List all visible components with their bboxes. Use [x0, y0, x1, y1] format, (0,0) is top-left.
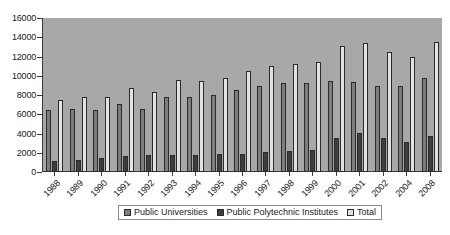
y-axis-tick: [37, 76, 42, 77]
bar-total: [105, 97, 110, 172]
x-axis-label-slot: 1991: [113, 176, 136, 206]
bar-group: [207, 18, 230, 172]
bar-group: [160, 18, 183, 172]
bar-total: [152, 92, 157, 172]
bar-polytechnic: [334, 138, 339, 172]
y-axis: 0200040006000800010000120001400016000: [0, 18, 36, 172]
y-axis-tick: [37, 134, 42, 135]
bar-polytechnic: [310, 150, 315, 172]
y-axis-tick: [37, 172, 42, 173]
bar-total: [129, 88, 134, 172]
bar-group: [90, 18, 113, 172]
x-axis-label-slot: 1988: [43, 176, 66, 206]
x-axis-label-slot: 2008: [419, 176, 442, 206]
bar-universities: [117, 104, 122, 172]
bar-polytechnic: [193, 155, 198, 172]
x-axis-tick-label: 1991: [112, 178, 133, 199]
bar-total: [293, 64, 298, 172]
y-axis-tick-label: 14000: [12, 32, 36, 42]
x-axis-tick-label: 1995: [205, 178, 226, 199]
x-axis-tick-label: 2002: [370, 178, 391, 199]
y-axis-tick: [37, 57, 42, 58]
x-axis-tick-label: 2000: [323, 178, 344, 199]
bar-polytechnic: [240, 154, 245, 172]
x-axis-label-slot: 1994: [184, 176, 207, 206]
bar-total: [269, 66, 274, 172]
bar-group: [372, 18, 395, 172]
legend-item-total[interactable]: Total: [347, 208, 376, 217]
bar-universities: [70, 109, 75, 172]
legend-swatch-icon: [124, 209, 131, 216]
y-axis-tick-label: 12000: [12, 52, 36, 62]
bar-polytechnic: [287, 151, 292, 172]
bar-total: [387, 52, 392, 172]
bar-universities: [211, 95, 216, 172]
y-axis-tick-label: 8000: [17, 90, 36, 100]
y-axis-tick: [37, 114, 42, 115]
x-axis-label-slot: 1990: [90, 176, 113, 206]
bar-chart: 0200040006000800010000120001400016000 19…: [0, 0, 450, 235]
y-axis-tick-label: 6000: [17, 109, 36, 119]
bar-group: [301, 18, 324, 172]
bar-polytechnic: [217, 154, 222, 172]
y-axis-tick: [37, 37, 42, 38]
bar-polytechnic: [146, 155, 151, 172]
bar-universities: [328, 81, 333, 172]
bar-group: [348, 18, 371, 172]
bar-total: [82, 97, 87, 172]
bar-group: [325, 18, 348, 172]
bar-universities: [140, 109, 145, 172]
x-axis: 1988198919901991199219931994199519961997…: [43, 176, 442, 206]
bar-universities: [375, 86, 380, 172]
bar-total: [434, 42, 439, 172]
bar-total: [340, 46, 345, 172]
bar-total: [246, 71, 251, 172]
legend-swatch-icon: [347, 209, 354, 216]
bar-universities: [46, 110, 51, 172]
x-axis-label-slot: 1998: [278, 176, 301, 206]
x-axis-label-slot: 1993: [160, 176, 183, 206]
bar-universities: [351, 82, 356, 172]
bar-polytechnic: [123, 156, 128, 172]
chart-legend: Public UniversitiesPublic Polytechnic In…: [118, 205, 382, 220]
x-axis-tick-label: 2001: [346, 178, 367, 199]
bar-group: [395, 18, 418, 172]
bar-universities: [234, 90, 239, 172]
x-axis-label-slot: 1992: [137, 176, 160, 206]
bar-group: [184, 18, 207, 172]
bar-universities: [422, 78, 427, 172]
x-axis-tick-label: 2008: [417, 178, 438, 199]
bar-group: [278, 18, 301, 172]
bar-universities: [304, 83, 309, 172]
x-axis-tick-label: 1994: [182, 178, 203, 199]
legend-item-polytechnic[interactable]: Public Polytechnic Institutes: [217, 208, 339, 217]
y-axis-tick: [37, 153, 42, 154]
y-axis-tick-label: 2000: [17, 148, 36, 158]
bar-universities: [281, 83, 286, 172]
bar-total: [176, 80, 181, 172]
bar-polytechnic: [52, 161, 57, 172]
y-axis-tick-label: 4000: [17, 129, 36, 139]
x-axis-label-slot: 1996: [231, 176, 254, 206]
legend-label: Total: [357, 208, 376, 217]
bar-polytechnic: [381, 138, 386, 172]
bar-universities: [257, 86, 262, 172]
y-axis-tick-label: 10000: [12, 71, 36, 81]
bars-layer: [43, 18, 442, 172]
bar-total: [363, 43, 368, 172]
x-axis-tick-label: 1993: [158, 178, 179, 199]
bar-total: [410, 57, 415, 173]
bar-group: [419, 18, 442, 172]
y-axis-tick-label: 0: [31, 167, 36, 177]
x-axis-label-slot: 1989: [66, 176, 89, 206]
legend-item-universities[interactable]: Public Universities: [124, 208, 208, 217]
bar-polytechnic: [99, 158, 104, 172]
bar-universities: [187, 97, 192, 172]
bar-group: [66, 18, 89, 172]
y-axis-tick: [37, 95, 42, 96]
x-axis-label-slot: 2004: [395, 176, 418, 206]
bar-polytechnic: [263, 152, 268, 172]
bar-polytechnic: [170, 155, 175, 172]
x-axis-tick-label: 1992: [135, 178, 156, 199]
bar-total: [316, 62, 321, 172]
